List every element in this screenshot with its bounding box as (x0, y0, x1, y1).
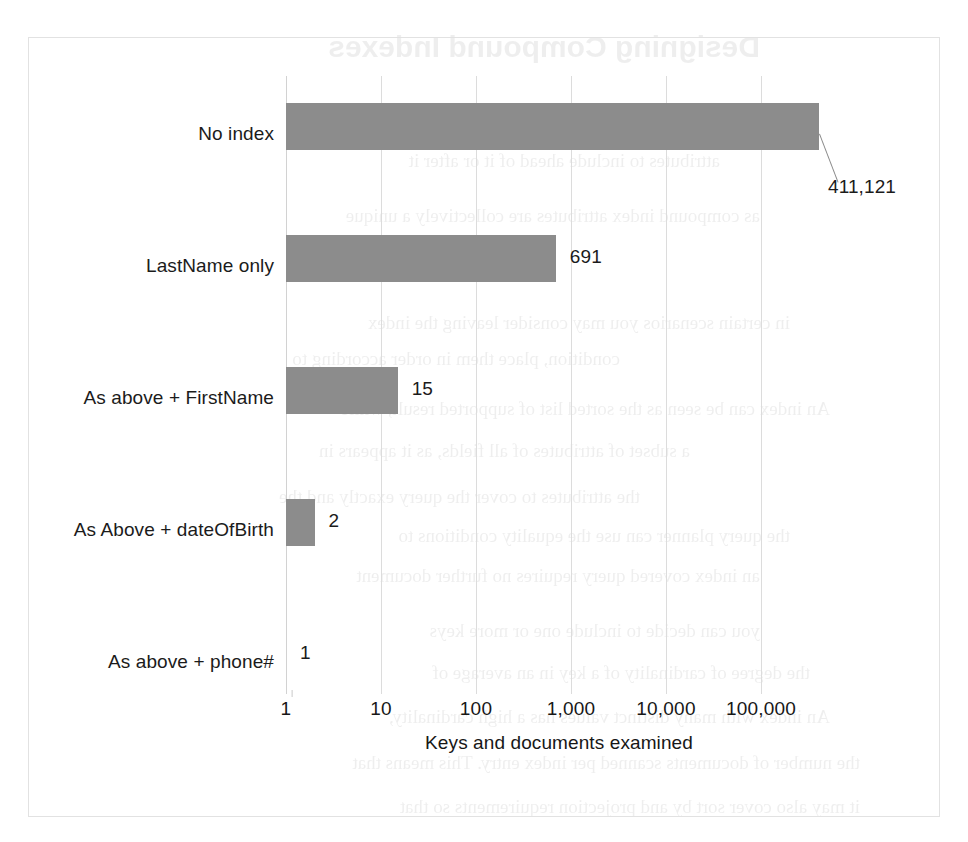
value-label-lastname-only: 691 (570, 246, 602, 268)
category-label-lastname-only: LastName only (146, 255, 274, 277)
chart-container: No index LastName only As above + FirstN… (28, 37, 940, 817)
xtick-1: 1 (281, 698, 292, 720)
gridline-100000 (761, 76, 762, 694)
gridline-1000 (571, 76, 572, 694)
value-label-firstname: 15 (412, 378, 433, 400)
xtick-100: 100 (460, 698, 492, 720)
gridline-100 (476, 76, 477, 694)
xtick-1000: 1,000 (547, 698, 596, 720)
xtick-10000: 10,000 (636, 698, 695, 720)
xtick-10: 10 (370, 698, 392, 720)
bar-no-index (286, 103, 819, 150)
xtick-100000: 100,000 (726, 698, 796, 720)
value-axis-ticks: 1 10 100 1,000 10,000 100,000 (29, 698, 939, 726)
gridline-10000 (666, 76, 667, 694)
category-label-phone: As above + phone# (108, 651, 274, 673)
category-label-firstname: As above + FirstName (84, 387, 275, 409)
value-label-dateofbirth: 2 (329, 510, 340, 532)
bar-lastname-only (286, 235, 556, 282)
x-axis-title: Keys and documents examined (286, 732, 832, 754)
bar-firstname (286, 367, 398, 414)
category-label-no-index: No index (198, 123, 274, 145)
value-label-no-index: 411,121 (828, 176, 896, 198)
value-label-phone: 1 (300, 642, 311, 664)
category-label-dateofbirth: As Above + dateOfBirth (74, 519, 274, 541)
bar-dateofbirth (286, 499, 315, 546)
plot-area: 411,121 691 15 2 1 (286, 76, 832, 694)
